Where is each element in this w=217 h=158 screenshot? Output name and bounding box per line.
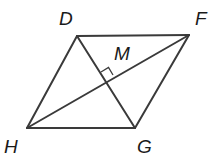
right-angle-marker [101,68,113,76]
vertex-label-m: M [114,43,130,64]
side-fg [135,35,189,128]
vertex-label-h: H [4,136,18,157]
side-df [77,35,189,36]
vertex-label-f: F [195,8,208,29]
rhombus-diagram: D F M H G [0,0,217,158]
vertex-label-d: D [59,8,73,29]
vertex-label-g: G [137,136,152,157]
